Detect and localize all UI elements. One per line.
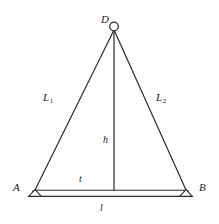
dimension-label-h: h xyxy=(103,135,108,145)
member-L2-line xyxy=(115,31,187,190)
member-L1-line xyxy=(35,31,114,190)
vertex-label-A: A xyxy=(13,182,20,193)
member-label-L2-subscript: 2 xyxy=(163,97,167,105)
vertex-label-B: B xyxy=(199,182,206,193)
member-label-L1: L1 xyxy=(43,92,53,103)
member-label-L1-base: L xyxy=(43,91,49,103)
vertex-label-D: D xyxy=(101,14,109,25)
dimension-label-t: t xyxy=(79,174,82,184)
dimension-label-l: l xyxy=(100,203,103,213)
pin-joint-D-circle xyxy=(110,22,119,31)
member-label-L1-subscript: 1 xyxy=(50,97,54,105)
member-label-L2: L2 xyxy=(156,92,166,103)
member-label-L2-base: L xyxy=(156,91,162,103)
truss-diagram-figure: D A B L1 L2 h t l xyxy=(0,0,219,224)
truss-diagram-canvas xyxy=(0,0,219,224)
